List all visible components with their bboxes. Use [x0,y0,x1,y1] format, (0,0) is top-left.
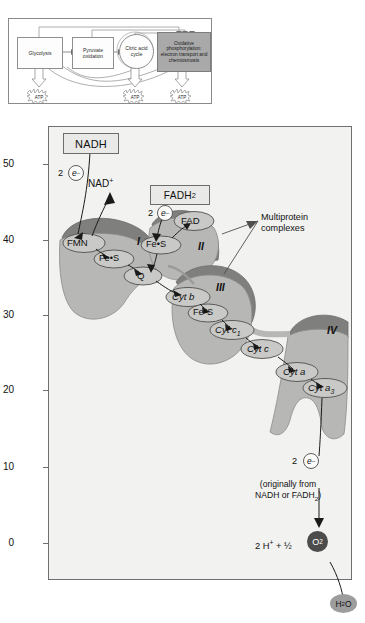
electron-pair-bottom-icon: e– [303,453,319,469]
complex-label-2: II [198,240,204,252]
carrier-label-cytc1: Cyt c1 [215,324,241,337]
multiprotein-complexes-callout: Multiproteincomplexes [261,212,308,235]
carrier-label-fes-3: Fe•S [193,307,213,317]
carrier-label-cyta3: Cyt a3 [308,382,334,395]
o2-molecule-icon: O2 [307,531,328,552]
y-tick-50: 50 [0,158,14,169]
complex-label-3: III [216,281,225,293]
inset-stage-citric-acid-cycle: Citric acid cycle [119,34,154,69]
metabolism-roadmap-inset: Glycolysis Pyruvate oxidation Citric aci… [8,18,212,104]
inset-atp-label-1: ATP [29,95,49,100]
inset-stage-pyruvate-oxidation: Pyruvate oxidation [72,37,114,69]
electron-pair-left-icon: e– [68,165,84,181]
carrier-label-q: Q [137,270,144,281]
complex-label-1: I [137,235,140,247]
y-tick-0: 0 [0,537,14,548]
carrier-label-fad: FAD [181,215,200,226]
electron-count-bottom: 2 [292,456,297,466]
inset-atp-label-3: ATP [172,95,192,100]
carrier-label-cytc: Cyt c [247,343,269,354]
nad-plus-label: NAD+ [88,176,113,189]
water-molecule-icon: H2O [330,594,357,613]
carrier-label-fes-2: Fe•S [146,239,166,249]
carrier-label-fmn: FMN [67,237,88,248]
electron-pair-middle-icon: e– [157,205,173,221]
y-tick-30: 30 [0,309,14,320]
fadh2-box: FADH2 [150,185,210,205]
carrier-label-cyta: Cyt a [283,366,305,377]
complex-label-4: IV [327,324,337,336]
originally-from-note: (originally fromNADH or FADH2) [233,479,343,502]
inset-stage-glycolysis: Glycolysis [17,37,63,69]
inset-stage-oxidative-phosphorylation: Oxidative phosphorylation: electron tran… [157,32,211,72]
carrier-label-fes-1: Fe•S [99,253,119,263]
electron-count-left: 2 [58,168,63,178]
y-tick-20: 20 [0,384,14,395]
y-tick-10: 10 [0,461,14,472]
oxygen-equation-label: 2 H+ + ½ [255,539,292,551]
figure-root: Glycolysis Pyruvate oxidation Citric aci… [0,0,365,623]
nadh-box: NADH [63,133,119,154]
carrier-label-cytb: Cyt b [172,291,194,302]
y-tick-40: 40 [0,234,14,245]
electron-count-middle: 2 [148,208,153,218]
inset-atp-label-2: ATP [125,95,145,100]
